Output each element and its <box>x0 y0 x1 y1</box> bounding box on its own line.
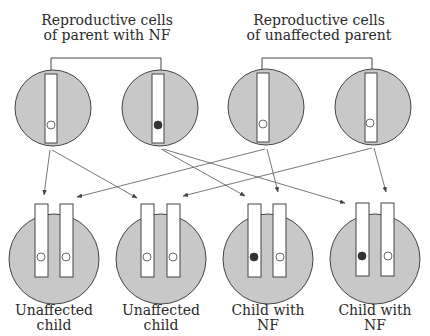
label-line: Unaffected <box>106 303 216 318</box>
label-line: child <box>0 318 109 333</box>
child-cell-4 <box>330 203 420 304</box>
arrow-icon <box>374 148 386 192</box>
arrow-icon <box>44 150 50 195</box>
nf-allele-icon <box>154 121 162 129</box>
normal-allele-icon <box>169 253 177 261</box>
arrow-icon <box>77 149 265 197</box>
arrow-icon <box>267 149 278 192</box>
reproductive-cell-nf-parent-1 <box>15 70 91 146</box>
reproductive-cell-unaffected-parent-2 <box>335 69 411 145</box>
child-4-label: Child with NF <box>320 303 430 333</box>
label-line: Child with <box>213 303 323 318</box>
normal-allele-icon <box>37 253 45 261</box>
normal-allele-icon <box>47 121 55 129</box>
normal-allele-icon <box>366 119 374 127</box>
nf-allele-icon <box>358 252 366 260</box>
label-line: NF <box>320 318 430 333</box>
inheritance-diagram <box>0 0 430 336</box>
label-line: Unaffected <box>0 303 109 318</box>
label-line: NF <box>213 318 323 333</box>
arrow-icon <box>163 149 345 203</box>
child-cell-1 <box>9 204 99 304</box>
inheritance-arrows <box>44 148 386 203</box>
child-1-label: Unaffected child <box>0 303 109 333</box>
child-cell-2 <box>116 204 206 304</box>
label-line: Child with <box>320 303 430 318</box>
parent-nf-bracket <box>51 58 161 70</box>
child-2-label: Unaffected child <box>106 303 216 333</box>
arrow-icon <box>52 150 137 198</box>
child-3-label: Child with NF <box>213 303 323 333</box>
normal-allele-icon <box>62 253 70 261</box>
label-line: child <box>106 318 216 333</box>
unaffected-parent-bracket <box>262 58 372 70</box>
normal-allele-icon <box>384 252 392 260</box>
reproductive-cell-nf-parent-2 <box>122 70 198 146</box>
normal-allele-icon <box>259 120 267 128</box>
nf-allele-icon <box>250 253 258 261</box>
reproductive-cell-unaffected-parent-1 <box>228 69 304 145</box>
child-cell-3 <box>223 204 313 304</box>
normal-allele-icon <box>276 253 284 261</box>
normal-allele-icon <box>143 253 151 261</box>
